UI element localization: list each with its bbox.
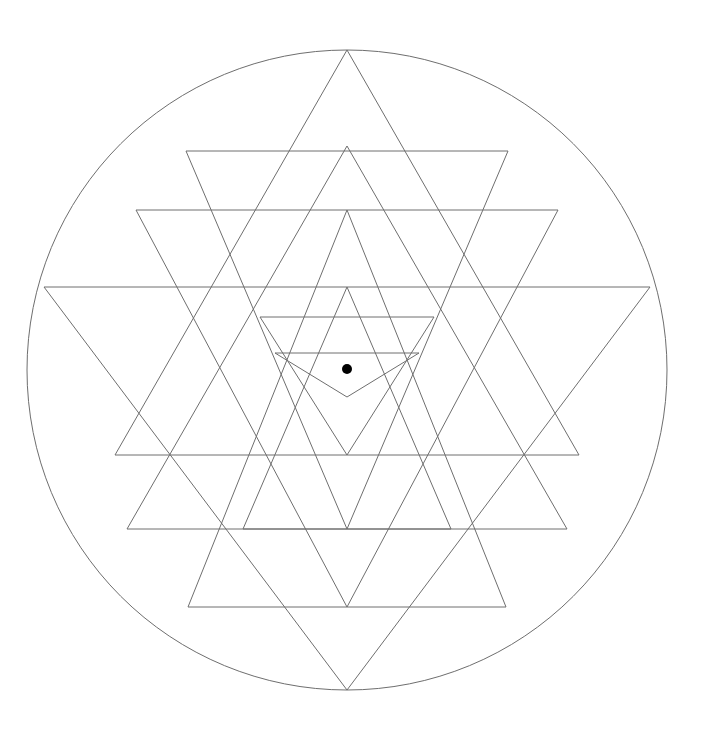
bindu-center-point bbox=[342, 364, 352, 374]
sri-yantra-diagram bbox=[0, 0, 702, 731]
canvas-background bbox=[0, 0, 702, 731]
